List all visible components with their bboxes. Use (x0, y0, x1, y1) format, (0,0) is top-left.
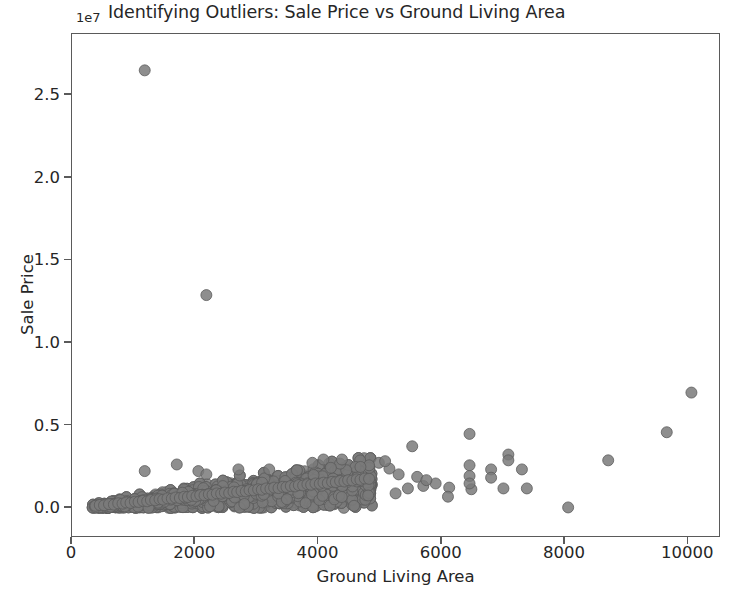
scatter-point (464, 428, 475, 439)
scatter-point (239, 499, 250, 510)
scatter-point (464, 460, 475, 471)
x-tick-label: 6000 (420, 543, 462, 562)
x-tick-label: 2000 (173, 543, 215, 562)
plot-area (71, 33, 720, 537)
scatter-point (264, 464, 275, 475)
scatter-point (380, 456, 391, 467)
scatter-point (421, 475, 432, 486)
scatter-point (139, 466, 150, 477)
scatter-point (139, 65, 150, 76)
scatter-point (686, 387, 697, 398)
scatter-point (516, 464, 527, 475)
scatter-point (318, 454, 329, 465)
scatter-point (390, 488, 401, 499)
scatter-points-layer (72, 34, 720, 537)
x-tick-label: 0 (66, 543, 77, 562)
scatter-point (355, 461, 366, 472)
scatter-point (498, 483, 509, 494)
scatter-point (300, 498, 311, 509)
scatter-point (281, 494, 292, 505)
scatter-point (291, 465, 302, 476)
scatter-point (486, 472, 497, 483)
chart-figure: 1e7 Identifying Outliers: Sale Price vs … (0, 0, 729, 597)
scatter-point (393, 469, 404, 480)
scatter-point (464, 478, 475, 489)
x-tick-label: 4000 (297, 543, 339, 562)
scatter-point (407, 441, 418, 452)
scatter-point (661, 427, 672, 438)
x-tick-label: 8000 (543, 543, 585, 562)
scatter-point (563, 502, 574, 513)
scatter-point (336, 454, 347, 465)
scatter-point (402, 483, 413, 494)
scatter-point (317, 490, 328, 501)
scatter-point (521, 483, 532, 494)
scatter-point (503, 455, 514, 466)
scatter-point (336, 492, 347, 503)
scatter-point (363, 490, 374, 501)
scatter-point (603, 455, 614, 466)
scatter-point (349, 500, 360, 511)
scatter-point (201, 469, 212, 480)
x-tick-label: 10000 (661, 543, 714, 562)
scatter-point (307, 457, 318, 468)
scatter-point (364, 473, 375, 484)
scatter-point (171, 459, 182, 470)
scatter-point (442, 491, 453, 502)
scatter-point (233, 464, 244, 475)
scatter-point (201, 290, 212, 301)
